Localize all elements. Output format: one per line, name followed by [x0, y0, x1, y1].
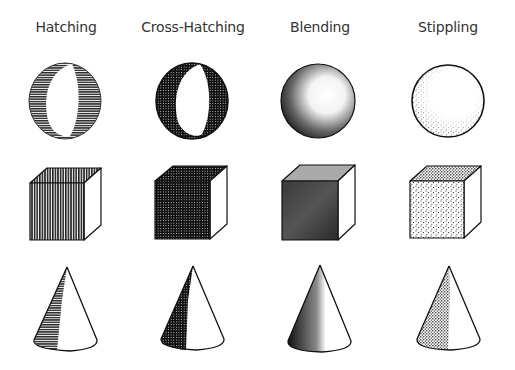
cube-stippling [410, 166, 481, 238]
sphere-blending [281, 64, 355, 138]
cube-hatching [30, 168, 101, 240]
sphere-stippling [412, 65, 484, 137]
cone-blending [288, 265, 351, 352]
cone-hatching [34, 267, 97, 351]
shading-illustration [0, 0, 515, 370]
cone-stippling [417, 266, 480, 350]
cube-cross-hatching [155, 166, 227, 239]
sphere-hatching [29, 63, 101, 139]
sphere-cross-hatching [156, 63, 228, 139]
cube-blending [282, 165, 355, 240]
cone-cross-hatching [161, 266, 224, 350]
